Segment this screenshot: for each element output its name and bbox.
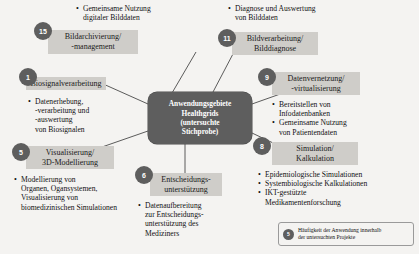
plate-line-1: Bildverarbeitung/ — [247, 34, 303, 44]
plate-line-1: Visualisierung/ — [42, 148, 98, 158]
edge-center-bildverarbeitung — [213, 52, 234, 92]
center-line-4: Stichprobe) — [169, 127, 231, 136]
plate-line-2: -management — [65, 42, 121, 52]
bullet-item: Bereitstellen von Infodatenbanken — [272, 100, 404, 118]
legend-text: Häufigkeit der Anwendung innerhalb der u… — [298, 227, 381, 240]
bullet-item: IKT-gestützte Medikamentenforschung — [258, 188, 418, 206]
plate-line-1: Bildarchivierung/ — [65, 32, 121, 42]
bullet-item: Gemeinsame Nutzung digitaler Bilddaten — [76, 4, 202, 22]
plate-line-2: unterstützung — [161, 185, 210, 195]
healthgrids-diagram: Anwendungsgebiete Healthgrids (untersuch… — [0, 0, 419, 254]
legend: 5 Häufigkeit der Anwendung innerhalb der… — [278, 222, 414, 246]
plate-line-2: Kalkulation — [296, 154, 334, 164]
bullets-entscheidungsunterstuetzung: Datenaufbereitung zur Entscheidungs- unt… — [138, 201, 238, 238]
center-line-3: (untersuchte — [169, 118, 231, 127]
plate-line-2: -virtualisierung — [288, 84, 345, 94]
badge-bildverarbeitung[interactable]: 11 — [218, 29, 236, 47]
center-node: Anwendungsgebiete Healthgrids (untersuch… — [148, 92, 252, 144]
plate-biosignalverarbeitung[interactable]: Biosignalverarbeitung — [26, 77, 106, 90]
bullets-simulation: Epidemiologische Simulationen Systembiol… — [258, 170, 418, 207]
bullet-item: Datenaufbereitung zur Entscheidungs- unt… — [138, 201, 238, 238]
plate-line-1: Datenvernetzung/ — [288, 74, 345, 84]
plate-line-2: 3D-Modellierung — [42, 158, 98, 168]
plate-visualisierung[interactable]: Visualisierung/ 3D-Modellierung — [26, 146, 114, 169]
bullets-bildarchivierung: Gemeinsame Nutzung digitaler Bilddaten — [76, 4, 202, 22]
badge-entscheidungsunterstuetzung[interactable]: 6 — [135, 166, 153, 184]
bullet-item: Datenerhebung, -verarbeitung und -auswer… — [28, 97, 138, 134]
bullet-item: Systembiologische Kalkulationen — [258, 179, 418, 188]
center-line-1: Anwendungsgebiete — [169, 99, 231, 108]
plate-datenvernetzung[interactable]: Datenvernetzung/ -virtualisierung — [272, 72, 360, 95]
bullet-item: Gemeinsame Nutzung von Patientendaten — [272, 118, 404, 136]
badge-datenvernetzung[interactable]: 9 — [258, 68, 276, 86]
bullet-item: Diagnose und Auswertung von Bilddaten — [228, 4, 378, 22]
badge-simulation[interactable]: 8 — [253, 137, 271, 155]
plate-entscheidungsunterstuetzung[interactable]: Entscheidungs- unterstützung — [150, 173, 222, 196]
bullets-datenvernetzung: Bereitstellen von Infodatenbanken Gemein… — [272, 100, 404, 137]
plate-line-1: Entscheidungs- — [161, 175, 210, 185]
bullets-biosignalverarbeitung: Datenerhebung, -verarbeitung und -auswer… — [28, 97, 138, 134]
plate-line-1: Biosignalverarbeitung — [30, 79, 101, 89]
center-line-2: Healthgrids — [169, 109, 231, 118]
badge-visualisierung[interactable]: 5 — [12, 143, 30, 161]
bullets-bildverarbeitung: Diagnose und Auswertung von Bilddaten — [228, 4, 378, 22]
plate-simulation[interactable]: Simulation/ Kalkulation — [272, 142, 358, 165]
plate-line-2: Bilddiagnose — [247, 44, 303, 54]
edge-center-bildarchivierung — [172, 52, 196, 93]
plate-bildverarbeitung[interactable]: Bildverarbeitung/ Bilddiagnose — [232, 32, 318, 55]
badge-bildarchivierung[interactable]: 15 — [34, 22, 52, 40]
plate-line-1: Simulation/ — [296, 144, 334, 154]
bullet-item: Epidemiologische Simulationen — [258, 170, 418, 179]
legend-badge: 5 — [283, 229, 294, 240]
badge-biosignalverarbeitung[interactable]: 1 — [19, 68, 37, 86]
plate-bildarchivierung[interactable]: Bildarchivierung/ -management — [48, 30, 138, 54]
